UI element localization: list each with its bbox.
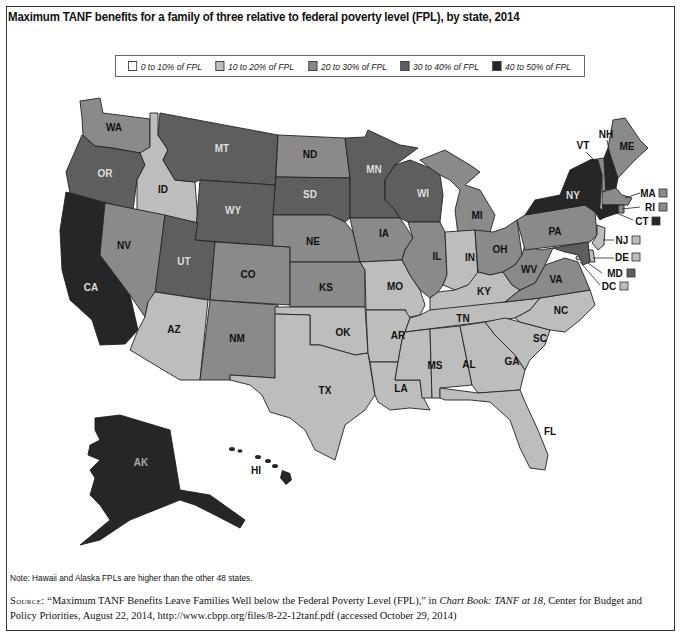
label-WV: WV [521,264,537,275]
label-AL: AL [462,359,475,370]
map-note: Note: Hawaii and Alaska FPLs are higher … [10,573,253,583]
label-NV: NV [117,240,131,251]
label-IL: IL [433,251,442,262]
source-label: Source: [10,595,45,606]
label-NE: NE [306,236,320,247]
label-MN: MN [366,164,382,175]
source-text-1: “Maximum TANF Benefits Leave Families We… [45,595,440,606]
states [60,98,648,545]
source-citation: Source: “Maximum TANF Benefits Leave Fam… [10,593,665,623]
label-ID: ID [158,184,168,195]
label-CT: CT [635,216,648,227]
label-VT: VT [577,140,590,151]
label-AK: AK [134,457,149,468]
label-MD: MD [607,268,623,279]
label-MT: MT [215,143,229,154]
us-map: WA OR CA ID NV MT WY UT AZ CO NM ND SD N… [0,0,683,637]
label-TX: TX [319,385,332,396]
label-NC: NC [554,305,568,316]
label-OR: OR [98,168,114,179]
label-NJ: NJ [616,235,629,246]
state-DC [576,256,580,260]
label-OH: OH [493,244,508,255]
label-AZ: AZ [167,324,180,335]
label-WA: WA [106,122,122,133]
label-IA: IA [379,228,389,239]
label-FL: FL [544,426,556,437]
label-MS: MS [428,360,443,371]
state-MA [602,188,632,205]
label-NY: NY [566,190,580,201]
label-ME: ME [620,141,635,152]
label-CO: CO [241,269,256,280]
label-MA: MA [640,188,656,199]
label-NM: NM [229,333,245,344]
label-WI: WI [417,188,429,199]
label-CA: CA [84,282,98,293]
label-SC: SC [533,333,547,344]
label-MO: MO [387,281,403,292]
state-AK [80,415,245,545]
state-CT [602,205,618,218]
label-WY: WY [225,205,241,216]
label-NH: NH [599,129,613,140]
label-KY: KY [477,286,491,297]
label-VA: VA [549,274,562,285]
label-GA: GA [505,356,520,367]
label-LA: LA [394,383,407,394]
label-AR: AR [391,330,406,341]
label-SD: SD [303,189,317,200]
label-HI: HI [251,465,261,476]
label-DE: DE [615,252,629,263]
label-IN: IN [465,252,475,263]
label-PA: PA [548,226,561,237]
source-book-title: Chart Book: TANF at 18 [439,595,543,606]
label-MI: MI [471,210,482,221]
label-ND: ND [303,149,317,160]
label-KS: KS [319,282,333,293]
label-UT: UT [177,256,190,267]
label-DC: DC [602,281,616,292]
label-OK: OK [336,327,352,338]
label-TN: TN [456,313,469,324]
label-RI: RI [645,202,655,213]
state-FL [440,388,548,470]
